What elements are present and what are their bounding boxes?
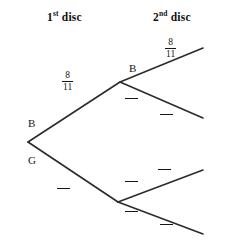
node-label-stage1-g: G [28, 155, 36, 166]
tree-diagram-canvas: 1st disc 2nd disc B G B 8 11 8 11 [0, 0, 225, 241]
header-second-disc: 2nd disc [153, 11, 191, 23]
branch-g-to-gg [118, 202, 203, 234]
branch-label-g-to-gg-upper [125, 210, 138, 212]
header-first-disc-text: disc [59, 11, 82, 23]
branch-label-root-to-g [57, 187, 70, 189]
fraction-bar [160, 114, 173, 115]
fraction-bar [158, 169, 171, 170]
header-second-disc-text: disc [168, 11, 191, 23]
fraction-bar [160, 224, 173, 225]
branch-label-g-to-gg-lower [160, 223, 173, 225]
branch-label-root-to-b-denominator: 11 [62, 82, 73, 92]
branch-label-g-to-gb-upper [158, 168, 171, 170]
branch-label-b-to-bg-upper [125, 97, 138, 99]
branch-label-g-to-gb-lower [125, 180, 138, 182]
fraction-bar [125, 98, 138, 99]
branch-label-root-to-b-numerator: 8 [62, 70, 73, 80]
branch-root-to-b [28, 82, 120, 142]
node-label-stage1-b: B [28, 118, 35, 129]
branch-label-b-to-bb: 8 11 [165, 37, 176, 60]
branch-label-b-to-bb-denominator: 11 [165, 49, 176, 59]
node-label-stage2-bb: B [129, 63, 136, 74]
fraction-bar [125, 181, 138, 182]
header-second-disc-suffix: nd [159, 9, 168, 18]
fraction-bar [125, 211, 138, 212]
branch-label-b-to-bg-lower [160, 113, 173, 115]
branch-label-b-to-bb-numerator: 8 [165, 37, 176, 47]
fraction-bar [57, 188, 70, 189]
branch-g-to-gb [118, 170, 203, 202]
branch-label-root-to-b: 8 11 [62, 70, 73, 93]
branch-root-to-g [28, 142, 118, 202]
header-first-disc: 1st disc [47, 11, 82, 23]
